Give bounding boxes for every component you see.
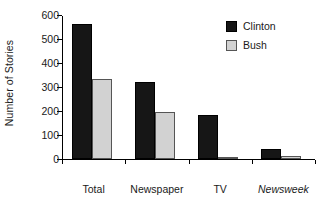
x-axis-label-newspaper: Newspaper <box>130 183 183 195</box>
bar-bush-tv <box>218 157 238 159</box>
y-axis-line <box>62 16 63 160</box>
x-axis-tick-mark <box>315 160 316 164</box>
y-axis-tick-label: 600 <box>41 9 59 21</box>
bar-chart: Number of Stories 0100200300400500600 To… <box>0 0 325 201</box>
legend-swatch-bush-icon <box>226 40 237 51</box>
bar-clinton-newsweek <box>261 149 281 159</box>
x-axis-label-newsweek: Newsweek <box>258 183 309 195</box>
x-axis-tick-mark <box>189 160 190 164</box>
y-axis-tick-label: 500 <box>41 33 59 45</box>
bar-clinton-tv <box>198 115 218 159</box>
legend-item-bush: Bush <box>226 39 276 51</box>
y-axis-tick-label: 400 <box>41 57 59 69</box>
legend-label-bush: Bush <box>243 39 267 51</box>
bar-clinton-total <box>72 24 92 159</box>
x-axis-label-total: Total <box>83 183 105 195</box>
bar-bush-newspaper <box>155 112 175 159</box>
y-axis-title: Number of Stories <box>0 0 18 165</box>
bar-group <box>135 14 175 159</box>
y-axis-tick-label: 100 <box>41 129 59 141</box>
x-axis-tick-mark <box>252 160 253 164</box>
bar-clinton-newspaper <box>135 82 155 159</box>
bar-bush-total <box>92 79 112 159</box>
bar-group <box>72 14 112 159</box>
x-axis-tick-mark <box>62 160 63 164</box>
x-axis-label-tv: TV <box>213 183 226 195</box>
y-axis-title-label: Number of Stories <box>3 39 15 125</box>
legend-label-clinton: Clinton <box>243 20 276 32</box>
legend-item-clinton: Clinton <box>226 20 276 32</box>
plot-area: 0100200300400500600 TotalNewspaperTVNews… <box>62 14 315 160</box>
x-axis-tick-mark <box>125 160 126 164</box>
bar-bush-newsweek <box>281 156 301 159</box>
y-axis-tick-label: 200 <box>41 105 59 117</box>
y-axis-tick-label: 0 <box>53 153 59 165</box>
y-axis-tick-label: 300 <box>41 81 59 93</box>
chart-legend: Clinton Bush <box>226 20 276 58</box>
legend-swatch-clinton-icon <box>226 21 237 32</box>
